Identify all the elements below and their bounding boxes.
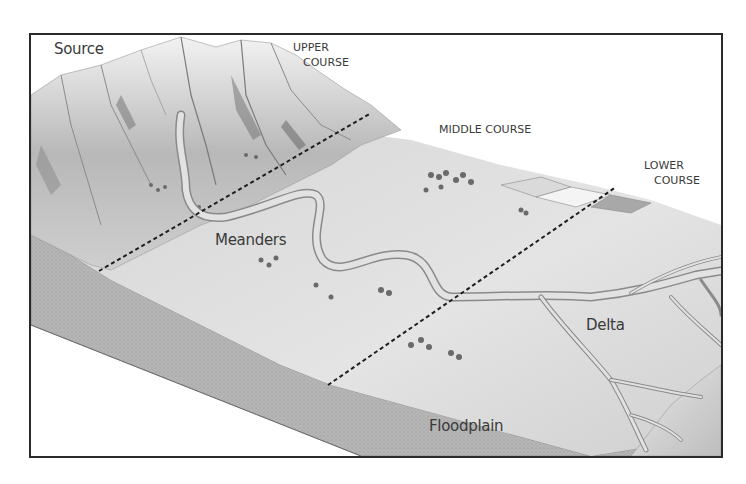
- label-lower-course-line1: LOWER: [644, 158, 700, 173]
- label-delta: Delta: [586, 316, 625, 334]
- label-source: Source: [54, 40, 104, 58]
- river-landscape-illustration: [31, 35, 721, 456]
- diagram-frame: Source UPPER COURSE MIDDLE COURSE LOWER …: [29, 33, 723, 458]
- label-lower-course: LOWER COURSE: [644, 158, 700, 188]
- label-meanders: Meanders: [215, 231, 286, 249]
- label-upper-course-line1: UPPER: [293, 40, 349, 55]
- label-upper-course-line2: COURSE: [293, 55, 349, 70]
- label-floodplain: Floodplain: [429, 417, 503, 435]
- label-upper-course: UPPER COURSE: [293, 40, 349, 70]
- label-lower-course-line2: COURSE: [644, 173, 700, 188]
- label-middle-course: MIDDLE COURSE: [439, 123, 531, 136]
